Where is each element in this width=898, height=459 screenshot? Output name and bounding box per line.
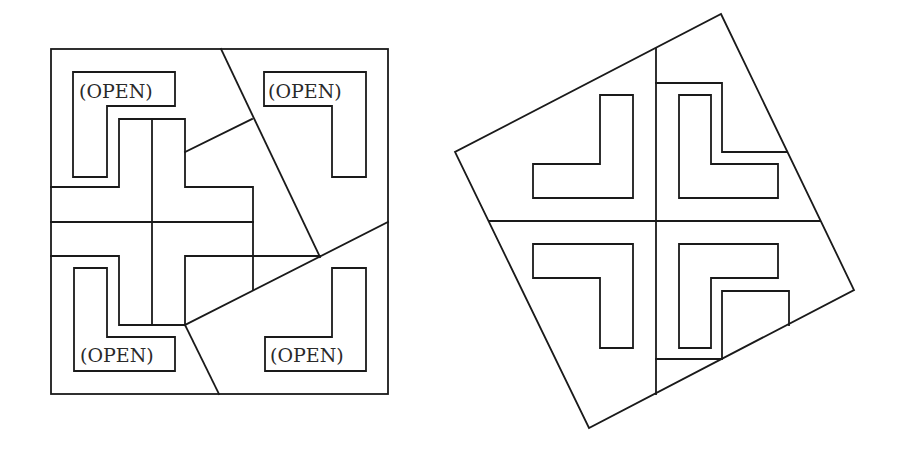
piece-edge-bottom-right: [722, 291, 789, 358]
cut-bottom-diagonal: [185, 325, 219, 394]
l-hole-top-right: [679, 95, 778, 198]
l-hole-bottom-right: [679, 244, 778, 348]
label-open-bottom-left: (OPEN): [80, 344, 154, 366]
piece-edge-top-right: [656, 83, 787, 152]
cross-lower-edge: [51, 256, 320, 325]
right-figure: [455, 14, 854, 428]
cut-upper-slant: [185, 119, 252, 152]
label-open-bottom-right: (OPEN): [270, 344, 344, 366]
left-figure: (OPEN) (OPEN) (OPEN) (OPEN): [51, 49, 388, 394]
cut-right-slant: [185, 222, 388, 325]
label-open-top-right: (OPEN): [268, 80, 342, 102]
l-hole-bottom-left: [533, 244, 633, 348]
label-open-top-left: (OPEN): [79, 80, 153, 102]
diagram-canvas: (OPEN) (OPEN) (OPEN) (OPEN): [0, 0, 898, 459]
l-hole-top-left: [533, 95, 633, 198]
